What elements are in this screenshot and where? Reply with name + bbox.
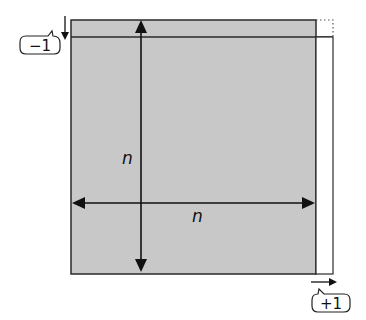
minus-one-callout: −1	[20, 31, 60, 55]
arrowhead-down-small-icon	[61, 32, 69, 40]
plus-one-callout: +1	[312, 289, 350, 313]
vertical-side-label: n	[122, 148, 133, 168]
square-transform-diagram: n n −1 +1	[0, 0, 366, 320]
arrowhead-right-small-icon	[329, 278, 337, 286]
minus-one-label: −1	[29, 37, 51, 55]
added-column	[316, 20, 333, 274]
plus-one-label: +1	[320, 295, 342, 313]
gray-square	[71, 20, 316, 274]
horizontal-side-label: n	[192, 206, 203, 226]
